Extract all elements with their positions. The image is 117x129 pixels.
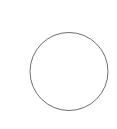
shape-layer xyxy=(0,0,117,129)
canvas-background xyxy=(0,0,117,129)
canvas-root xyxy=(0,0,117,129)
